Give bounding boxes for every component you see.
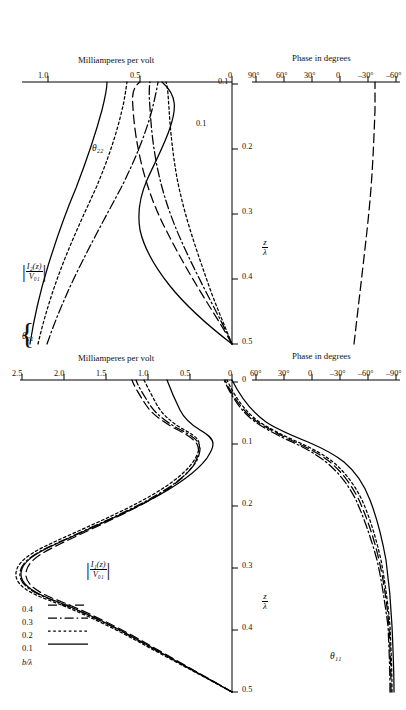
x-tick-left-5: 0 [242,376,246,384]
magnitude-den-right: V₀₁ [26,272,43,281]
x-tick-right-4: 0.1 [218,78,228,86]
abs-bar-close: | [107,561,111,578]
y-tick-ph-right-4: 60° [276,72,287,80]
y-tick-ph-right-2: 0 [336,72,340,80]
y-tick-mag-left-5: 2.5 [12,370,22,378]
figure-canvas: b/λ 0.1 0.2 0.3 0.4 |I₁(z)V₀₁| θ₁₁ 0.5 0… [0,0,406,710]
chart-panel-right: θ₂₁ { |I₂(z)V₀₁| θ₂₂ 0.5 0.4 0.3 0.2 0.1… [0,0,406,358]
y-tick-ph-left-2: –30° [330,370,346,378]
y-tick-ph-left-3: 0 [308,370,312,378]
y-tick-mag-left-0: 0 [228,370,232,378]
x-axis-title-left: zλ [262,592,268,611]
legend-label-2: 0.3 [22,618,33,627]
magnitude-label-right: |I₂(z)V₀₁| [22,262,46,281]
x-tick-left-1: 0.4 [242,624,252,632]
x-axis-den-left: λ [262,602,268,611]
y-tick-ph-right-1: –30° [358,72,374,80]
x-tick-right-2: 0.3 [242,208,252,216]
y-tick-ph-left-1: –60° [358,370,374,378]
magnitude-curves-right [133,82,232,344]
phase-curves-left [224,380,394,692]
y-tick-mag-right-2: 1.0 [38,72,48,80]
y-tick-ph-right-0: –60° [386,72,402,80]
chart-panel-left: b/λ 0.1 0.2 0.3 0.4 |I₁(z)V₀₁| θ₁₁ 0.5 0… [0,358,406,710]
y-tick-mag-left-1: 0.5 [180,370,190,378]
magnitude-den-left: V₀₁ [90,570,107,579]
x-tick-right-1: 0.4 [242,273,252,281]
y-axis-title-ph-right: Phase in degrees [292,54,351,63]
legend-label-3: 0.4 [22,605,33,614]
x-axis-den-right: λ [262,248,268,257]
x-tick-left-2: 0.3 [242,562,252,570]
legend-title: b/λ [22,658,32,667]
y-axis-title-mag-right: Milliamperes per volt [78,56,154,65]
phase-brace-right: { [20,318,34,348]
y-tick-mag-right-0: 0 [228,72,232,80]
legend-label-0: 0.1 [22,644,33,653]
x-axis-title-right: zλ [262,238,268,257]
legend-label-1: 0.2 [22,631,33,640]
y-tick-ph-right-5: 90° [248,72,259,80]
legend-sample-lines [44,560,92,650]
y-tick-ph-left-5: 60° [250,370,261,378]
x-tick-right-3: 0.2 [242,143,252,151]
x-tick-left-0: 0.5 [242,686,252,694]
y-tick-mag-left-4: 2.0 [54,370,64,378]
y-tick-mag-right-1: 0.5 [130,72,140,80]
inline-annotation-0-1: 0.1 [196,120,206,128]
x-tick-right-0: 0.5 [242,338,252,346]
y-tick-ph-left-0: –90° [386,370,402,378]
y-tick-ph-left-4: 30° [278,370,289,378]
y-tick-ph-right-3: 30° [304,72,315,80]
phase-label-left: θ₁₁ [330,652,341,662]
abs-bar-close-right: | [43,263,47,280]
magnitude-label-left: |I₁(z)V₀₁| [86,560,110,579]
y-tick-mag-left-3: 1.5 [96,370,106,378]
phase-label-right-lower: θ₂₂ [92,144,103,154]
x-tick-left-4: 0.1 [242,438,252,446]
x-tick-left-3: 0.2 [242,500,252,508]
y-tick-mag-left-2: 1.0 [138,370,148,378]
